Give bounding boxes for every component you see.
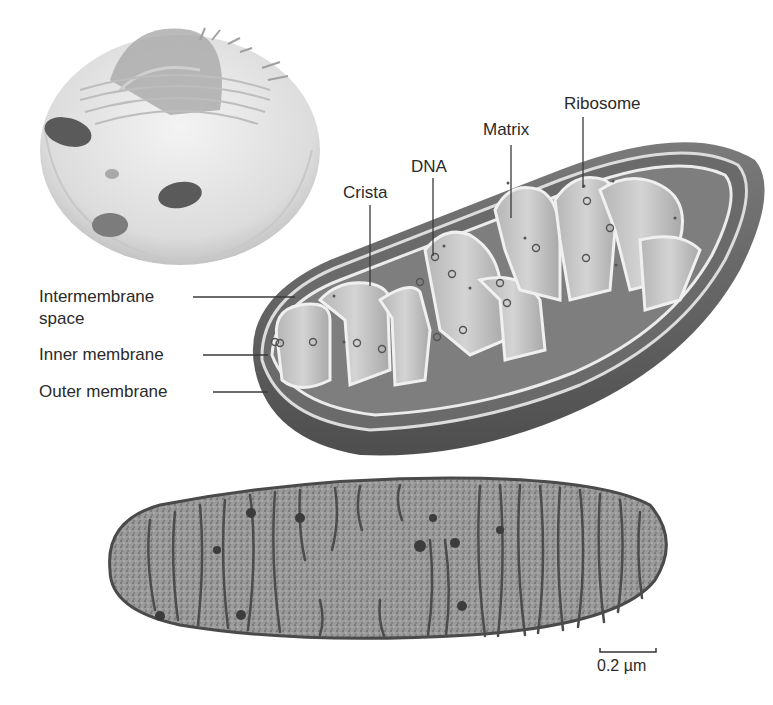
label-matrix: Matrix [483, 120, 529, 140]
label-inner-membrane: Inner membrane [39, 345, 164, 365]
scale-bar [600, 648, 656, 652]
electron-micrograph [110, 478, 667, 638]
label-crista: Crista [343, 183, 387, 203]
label-intermembrane-space-line2: space [39, 309, 84, 329]
label-intermembrane-space-line1: Intermembrane [39, 287, 154, 307]
label-outer-membrane: Outer membrane [39, 382, 168, 402]
mitochondrion-cutaway [253, 142, 765, 455]
label-dna: DNA [411, 157, 447, 177]
label-ribosome: Ribosome [564, 94, 641, 114]
scale-bar-label: 0.2 µm [597, 656, 646, 676]
cell-illustration [40, 28, 320, 265]
